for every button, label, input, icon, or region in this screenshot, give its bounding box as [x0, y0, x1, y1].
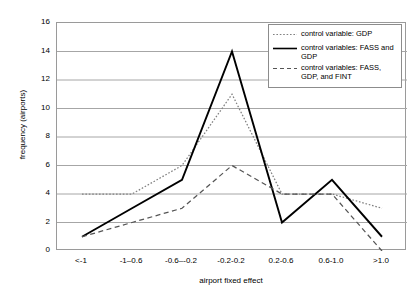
y-tick-6: 6 — [28, 161, 50, 169]
y-tick-2: 2 — [28, 218, 50, 226]
x-tick-4: 0.2-0.6 — [269, 256, 294, 266]
x-tick-5: 0.6-1.0 — [319, 256, 344, 266]
y-tick-10: 10 — [28, 104, 50, 112]
y-tick-14: 14 — [28, 47, 50, 55]
legend-item-fass-gdp-fint: control variables: FASS, GDP, and FINT — [272, 63, 398, 81]
legend-label-fass-gdp: control variables: FASS and GDP — [301, 43, 398, 61]
legend-item-fass-gdp: control variables: FASS and GDP — [272, 43, 398, 61]
x-axis-title: airport fixed effect — [56, 276, 406, 285]
line-chart-figure: frequency (airports) 16 14 12 10 8 6 4 2… — [0, 0, 420, 298]
y-axis-tick-labels: 16 14 12 10 8 6 4 2 0 — [22, 0, 50, 298]
legend-label-fass-gdp-fint: control variables: FASS, GDP, and FINT — [301, 63, 398, 81]
series-line-0 — [82, 94, 382, 208]
x-tick-2: -0.6–-0.2 — [165, 256, 197, 266]
x-tick-1: -1–0.6 — [120, 256, 143, 266]
y-tick-12: 12 — [28, 75, 50, 83]
x-tick-3: -0.2-0.2 — [217, 256, 245, 266]
legend-label-gdp: control variable: GDP — [301, 29, 372, 38]
legend-swatch-solid-icon — [272, 43, 298, 55]
x-tick-6: >1.0 — [373, 256, 389, 266]
y-tick-4: 4 — [28, 189, 50, 197]
x-tick-0: <-1 — [75, 256, 87, 266]
legend-swatch-dashed-icon — [272, 63, 298, 75]
y-tick-16: 16 — [28, 18, 50, 26]
y-tick-0: 0 — [28, 246, 50, 254]
legend-swatch-dotted-icon — [272, 29, 298, 41]
x-axis-tick-labels: <-1 -1–0.6 -0.6–-0.2 -0.2-0.2 0.2-0.6 0.… — [56, 256, 406, 270]
y-tick-8: 8 — [28, 132, 50, 140]
chart-legend: control variable: GDP control variables:… — [268, 24, 402, 88]
series-line-2 — [82, 166, 382, 252]
legend-item-gdp: control variable: GDP — [272, 29, 398, 41]
